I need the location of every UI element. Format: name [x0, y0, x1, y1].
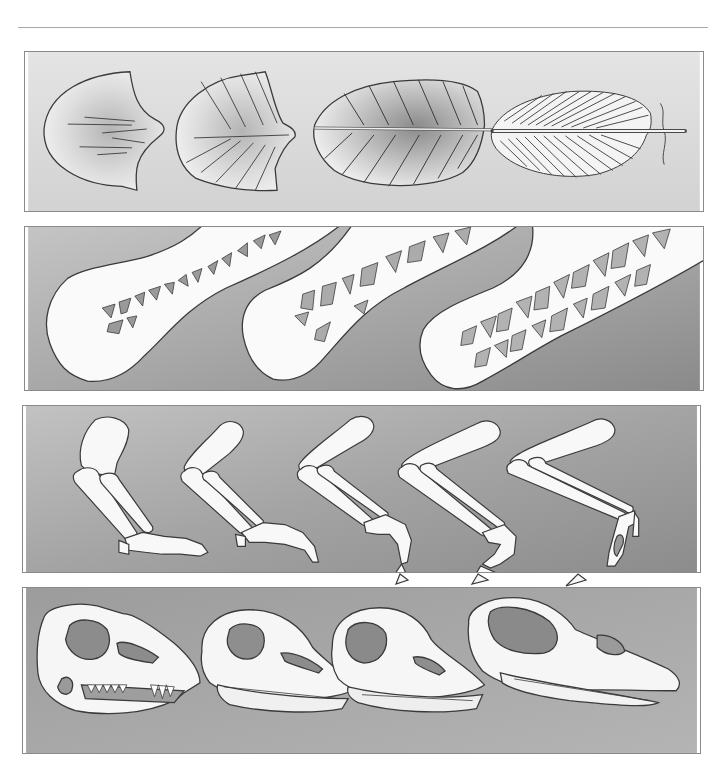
limbs-illustration [23, 406, 700, 572]
skulls-panel [22, 587, 701, 754]
feathers-panel [24, 51, 704, 212]
claw-icon [566, 574, 586, 586]
bones-illustration [25, 227, 703, 390]
claw-icon [472, 574, 488, 584]
skulls-illustration [23, 588, 700, 753]
top-rule [18, 27, 708, 28]
feathers-illustration [25, 52, 703, 211]
claw-icon [396, 574, 408, 584]
bones-panel [24, 226, 704, 391]
limbs-panel [22, 405, 701, 573]
